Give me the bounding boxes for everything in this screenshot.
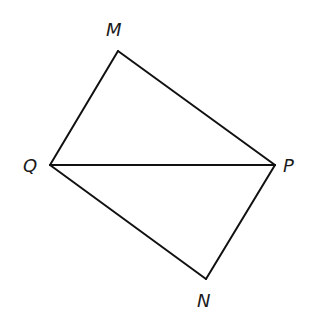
segment-qm xyxy=(50,51,118,165)
geometry-diagram: MQPN xyxy=(0,0,313,326)
edges-group xyxy=(50,51,275,279)
vertex-label-m: M xyxy=(106,19,122,40)
vertex-label-n: N xyxy=(197,290,210,311)
segment-np xyxy=(206,165,275,279)
vertex-label-q: Q xyxy=(23,155,37,176)
segment-qn xyxy=(50,165,206,279)
quadrilateral-figure: MQPN xyxy=(0,0,313,326)
vertex-label-p: P xyxy=(283,155,294,176)
segment-mp xyxy=(118,51,275,165)
